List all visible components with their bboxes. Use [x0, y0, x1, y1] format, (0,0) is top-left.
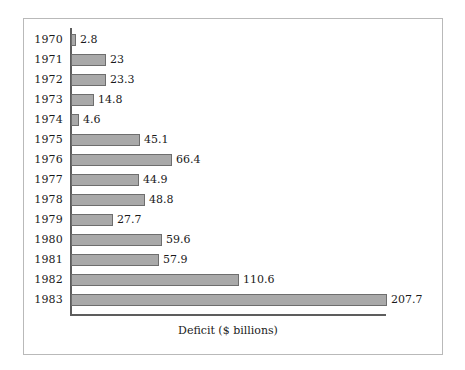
value-label: 2.8	[80, 33, 98, 46]
bar-row: 1978 48.8	[24, 190, 444, 210]
value-label: 44.9	[143, 173, 168, 186]
bar-row: 1979 27.7	[24, 210, 444, 230]
value-label: 66.4	[176, 153, 201, 166]
bar-row: 1971 23	[24, 50, 444, 70]
value-label: 27.7	[117, 213, 142, 226]
bar	[71, 214, 113, 226]
value-label: 59.6	[166, 233, 191, 246]
value-label: 23.3	[110, 73, 135, 86]
bar	[71, 94, 94, 106]
category-label: 1978	[24, 193, 63, 206]
category-label: 1976	[24, 153, 63, 166]
bar-row: 1973 14.8	[24, 90, 444, 110]
plot-area: 1970 2.8 1971 23 1972 23.3 1973 14.8 197…	[24, 19, 444, 356]
value-label: 4.6	[83, 113, 101, 126]
category-label: 1972	[24, 73, 63, 86]
value-label: 14.8	[98, 93, 123, 106]
bar	[71, 194, 145, 206]
bar	[71, 274, 239, 286]
bar	[71, 74, 106, 86]
chart-frame: 1970 2.8 1971 23 1972 23.3 1973 14.8 197…	[23, 18, 443, 355]
value-label: 207.7	[391, 293, 423, 306]
bar	[71, 154, 172, 166]
category-label: 1974	[24, 113, 63, 126]
bar-row: 1983 207.7	[24, 290, 444, 310]
x-axis-line	[70, 314, 386, 316]
value-label: 45.1	[144, 133, 169, 146]
bar-row: 1972 23.3	[24, 70, 444, 90]
bar	[71, 134, 140, 146]
value-label: 23	[110, 53, 124, 66]
bar-row: 1981 57.9	[24, 250, 444, 270]
value-label: 110.6	[243, 273, 275, 286]
x-axis-title: Deficit ($ billions)	[70, 324, 386, 337]
bar	[71, 294, 387, 306]
bar-row: 1982 110.6	[24, 270, 444, 290]
bar-row: 1975 45.1	[24, 130, 444, 150]
bar	[71, 254, 159, 266]
category-label: 1982	[24, 273, 63, 286]
bar-row: 1980 59.6	[24, 230, 444, 250]
value-label: 48.8	[149, 193, 174, 206]
bar	[71, 174, 139, 186]
bar-row: 1974 4.6	[24, 110, 444, 130]
bar	[71, 34, 76, 46]
value-label: 57.9	[163, 253, 188, 266]
category-label: 1977	[24, 173, 63, 186]
category-label: 1975	[24, 133, 63, 146]
bar-row: 1976 66.4	[24, 150, 444, 170]
bar-row: 1970 2.8	[24, 30, 444, 50]
bar	[71, 234, 162, 246]
bar	[71, 54, 106, 66]
category-label: 1973	[24, 93, 63, 106]
category-label: 1983	[24, 293, 63, 306]
category-label: 1980	[24, 233, 63, 246]
category-label: 1971	[24, 53, 63, 66]
category-label: 1981	[24, 253, 63, 266]
bar-row: 1977 44.9	[24, 170, 444, 190]
bar	[71, 114, 79, 126]
category-label: 1970	[24, 33, 63, 46]
category-label: 1979	[24, 213, 63, 226]
